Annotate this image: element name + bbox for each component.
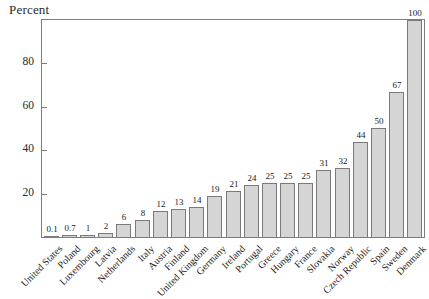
bar [226, 191, 241, 237]
plot-area [41, 19, 425, 238]
y-axis-tick-label: 60 [0, 99, 34, 111]
y-axis-tick [42, 194, 47, 195]
bar [244, 185, 259, 237]
y-axis-title: Percent [9, 2, 49, 18]
y-axis-tick-label: 20 [0, 186, 34, 198]
bar-value-label: 50 [365, 116, 393, 126]
bar-value-label: 32 [329, 156, 357, 166]
bar-value-label: 8 [129, 208, 157, 218]
bar [335, 168, 350, 237]
y-axis-tick [42, 63, 47, 64]
bar [98, 233, 113, 237]
bar [189, 207, 204, 237]
bar-value-label: 2 [92, 221, 120, 231]
y-axis-tick [42, 150, 47, 151]
bar [62, 235, 77, 237]
bar [44, 236, 59, 237]
y-axis-tick-label: 80 [0, 55, 34, 67]
bar-value-label: 44 [347, 130, 375, 140]
bar [298, 183, 313, 237]
bar-value-label: 14 [183, 195, 211, 205]
bar [262, 183, 277, 237]
bar [371, 128, 386, 237]
bar [80, 235, 95, 237]
bar-value-label: 100 [401, 8, 429, 18]
bar [135, 220, 150, 237]
bar-value-label: 25 [292, 171, 320, 181]
bar [280, 183, 295, 237]
bar-chart: Percent 204060800.1United States0.7Polan… [0, 0, 429, 299]
bar-value-label: 67 [383, 80, 411, 90]
y-axis-tick-label: 40 [0, 142, 34, 154]
bar [407, 20, 422, 237]
y-axis-tick [42, 107, 47, 108]
bar [389, 92, 404, 237]
bar [171, 209, 186, 237]
